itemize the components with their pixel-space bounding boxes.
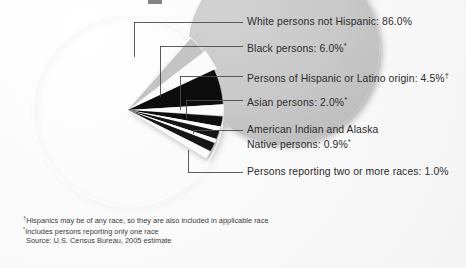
label-american-indian: American Indian and Alaska Native person… [247, 124, 378, 152]
label-asian-marker: * [344, 95, 347, 104]
leader-two-or-more [188, 150, 243, 172]
label-american-indian-line2: Native persons: 0.9% [247, 140, 348, 151]
label-american-indian-line1: American Indian and Alaska [247, 124, 378, 135]
label-hispanic: Persons of Hispanic or Latino origin: 4.… [247, 70, 449, 86]
label-white-persons-text: White persons not Hispanic: 86.0% [247, 16, 412, 27]
footnote-source: Source: U.S. Census Bureau, 2005 estimat… [26, 236, 171, 245]
footnote-source-text: Source: U.S. Census Bureau, 2005 estimat… [26, 236, 171, 245]
label-white-persons: White persons not Hispanic: 86.0% [247, 16, 412, 28]
label-two-or-more-races-text: Persons reporting two or more races: 1.0… [247, 166, 449, 177]
label-hispanic-marker: † [445, 71, 449, 80]
label-american-indian-marker: * [348, 137, 351, 146]
label-hispanic-text: Persons of Hispanic or Latino origin: 4.… [247, 73, 445, 84]
label-black-persons-marker: * [344, 41, 347, 50]
label-two-or-more-races: Persons reporting two or more races: 1.0… [247, 166, 449, 178]
label-asian-text: Asian persons: 2.0% [247, 97, 344, 108]
label-black-persons: Black persons: 6.0%* [247, 40, 347, 56]
chart-figure: White persons not Hispanic: 86.0% Black … [0, 0, 466, 268]
label-asian: Asian persons: 2.0%* [247, 94, 347, 110]
label-black-persons-text: Black persons: 6.0% [247, 43, 344, 54]
